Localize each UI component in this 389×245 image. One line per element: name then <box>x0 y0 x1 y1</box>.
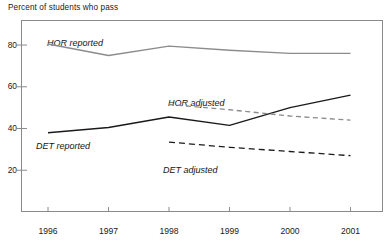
x-axis-tick-label-2000: 2000 <box>270 226 310 236</box>
y-axis-tick-label-40: 40 <box>1 123 17 133</box>
y-axis-tick-label-80: 80 <box>1 40 17 50</box>
series-label-hor-adjusted: HOR adjusted <box>168 98 225 108</box>
chart-axis-title: Percent of students who pass <box>8 3 118 12</box>
series-label-det-adjusted: DET adjusted <box>163 165 218 175</box>
y-axis-tick-label-20: 20 <box>1 165 17 175</box>
series-label-det-reported: DET reported <box>36 141 90 151</box>
y-axis-tick-label-60: 60 <box>1 81 17 91</box>
x-axis-tick-label-2001: 2001 <box>331 226 371 236</box>
x-axis-tick-label-1997: 1997 <box>89 226 129 236</box>
series-label-hor-reported: HOR reported <box>47 38 103 48</box>
plot-area-frame <box>21 20 383 212</box>
x-axis-tick-label-1996: 1996 <box>28 226 68 236</box>
x-axis-tick-label-1998: 1998 <box>149 226 189 236</box>
x-axis-tick-label-1999: 1999 <box>210 226 250 236</box>
chart-figure: Percent of students who pass 80 60 40 20… <box>0 0 389 245</box>
